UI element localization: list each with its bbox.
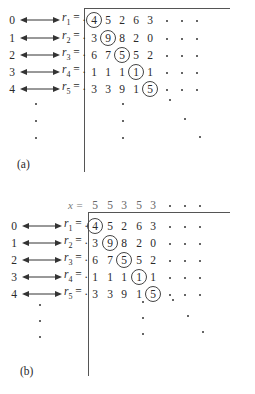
continuation-dot — [199, 277, 201, 279]
bijection-arrow-icon — [22, 222, 62, 230]
digit-cell: 1 — [150, 271, 156, 283]
continuation-dot — [184, 277, 186, 279]
x-digit: 5 — [136, 199, 142, 211]
row-index: 3 — [11, 271, 17, 283]
continuation-dot — [169, 260, 171, 262]
digit-cell: 6 — [136, 220, 142, 232]
x-continuation-dot — [199, 205, 201, 207]
table-ellipsis-dot — [187, 315, 189, 317]
equals-decimal: = . — [72, 285, 87, 297]
digit-cell: 7 — [107, 254, 113, 266]
row-index: 2 — [11, 254, 17, 266]
digit-cell: 2 — [121, 220, 127, 232]
digit-cell: 5 — [107, 220, 113, 232]
real-number-label: r4 = . — [64, 268, 88, 285]
diagonal-circle — [87, 218, 103, 234]
real-number-label: r2 = . — [64, 234, 88, 251]
diagonal-circle — [131, 269, 147, 285]
bijection-arrow-icon — [22, 256, 62, 264]
continuation-dot — [199, 294, 201, 296]
table-top-rule — [88, 212, 230, 213]
digit-cell: 1 — [107, 271, 113, 283]
x-digit: 5 — [92, 199, 98, 211]
continuation-dot — [169, 277, 171, 279]
real-number-label: r5 = . — [64, 285, 88, 302]
diagonal-circle — [116, 252, 132, 268]
continuation-dot — [169, 294, 171, 296]
continuation-dot — [169, 226, 171, 228]
digit-cell: 1 — [121, 271, 127, 283]
continuation-dot — [184, 294, 186, 296]
panel-label: (b) — [20, 365, 33, 377]
vertical-ellipsis-dot — [39, 304, 41, 306]
digit-cell: 5 — [136, 254, 142, 266]
table-ellipsis-dot — [202, 331, 204, 333]
table-ellipsis-dot — [142, 301, 144, 303]
continuation-dot — [199, 226, 201, 228]
bijection-arrow-icon — [22, 273, 62, 281]
real-number-label: r3 = . — [64, 251, 88, 268]
row-index: 1 — [11, 237, 17, 249]
table-ellipsis-dot — [142, 333, 144, 335]
x-continuation-dot — [169, 205, 171, 207]
equals-decimal: = . — [72, 234, 87, 246]
x-continuation-dot — [184, 205, 186, 207]
table-ellipsis-dot — [142, 317, 144, 319]
continuation-dot — [184, 260, 186, 262]
continuation-dot — [199, 243, 201, 245]
continuation-dot — [184, 226, 186, 228]
equals-decimal: = . — [72, 217, 87, 229]
x-digit: 3 — [150, 199, 156, 211]
x-digit: 5 — [107, 199, 113, 211]
digit-cell: 0 — [150, 237, 156, 249]
bijection-arrow-icon — [22, 290, 62, 298]
equals-decimal: = . — [72, 251, 87, 263]
digit-cell: 8 — [121, 237, 127, 249]
equals-decimal: = . — [72, 268, 87, 280]
real-number-label: r1 = . — [64, 217, 88, 234]
digit-cell: 6 — [92, 254, 98, 266]
row-index: 0 — [11, 220, 17, 232]
digit-cell: 2 — [136, 237, 142, 249]
digit-cell: 9 — [121, 288, 127, 300]
row-index: 4 — [11, 288, 17, 300]
table-ellipsis-dot — [172, 299, 174, 301]
x-digit: 3 — [121, 199, 127, 211]
continuation-dot — [199, 260, 201, 262]
digit-cell: 3 — [107, 288, 113, 300]
panel-b: x =553530 r1 = .452631 r2 = .398202 r3 =… — [0, 0, 255, 394]
digit-cell: 3 — [150, 220, 156, 232]
digit-cell: 3 — [92, 237, 98, 249]
digit-cell: 3 — [92, 288, 98, 300]
vertical-ellipsis-dot — [39, 320, 41, 322]
diagonal-circle — [145, 286, 161, 302]
table-left-rule — [88, 212, 89, 376]
digit-cell: 1 — [92, 271, 98, 283]
vertical-ellipsis-dot — [39, 336, 41, 338]
x-row-label: x = — [68, 199, 83, 211]
digit-cell: 2 — [150, 254, 156, 266]
digit-cell: 1 — [136, 288, 142, 300]
bijection-arrow-icon — [22, 239, 62, 247]
diagonal-circle — [102, 235, 118, 251]
continuation-dot — [169, 243, 171, 245]
continuation-dot — [184, 243, 186, 245]
